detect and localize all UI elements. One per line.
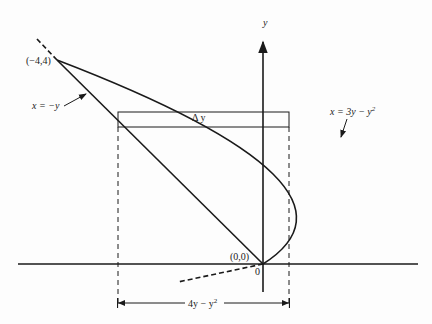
width-label-main: 4y − y [188,298,214,309]
point-label-top: (−4,4) [26,56,51,66]
strip-label: Δ y [192,113,205,123]
line-x-eq-neg-y [57,60,263,264]
width-label-exp: 2 [214,297,218,305]
diagram-canvas: y 0 (−4,4) (0,0) x = −y x = 3y − y2 Δ y … [0,0,432,324]
parabola-label-exp: 2 [372,105,376,113]
parabola-curve [57,60,296,264]
point-label-origin: (0,0) [230,252,249,262]
line-extension-bottom [178,264,263,282]
y-axis-label: y [263,18,267,28]
width-label: 4y − y2 [188,298,217,309]
line-label-pointer [64,94,86,106]
parabola-label: x = 3y − y2 [330,106,375,117]
diagram-svg [0,0,432,324]
origin-label: 0 [255,267,260,277]
parabola-label-main: x = 3y − y [330,106,372,117]
parabola-label-pointer [341,119,347,137]
line-label: x = −y [32,101,59,111]
